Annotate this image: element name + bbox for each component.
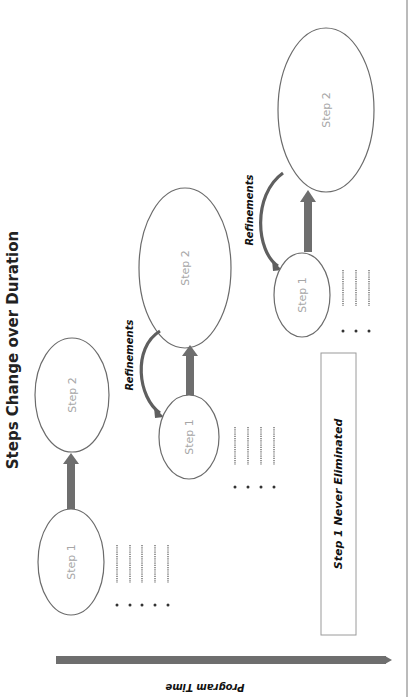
stage-2-list xyxy=(234,427,276,489)
stage-3-refinement-curve xyxy=(261,173,283,266)
stage-1-arrow xyxy=(67,462,75,510)
note-box-label: Step 1 Never Eliminated xyxy=(332,419,345,570)
stage-2-refinement-curve xyxy=(141,331,160,413)
stage-3-step2-label: Step 2 xyxy=(320,92,333,128)
stage-3-arrowhead-icon xyxy=(300,190,316,202)
stage-1-step2-label: Step 2 xyxy=(66,377,79,413)
stage-3: Step 2 Refinements Step 1 xyxy=(244,28,374,337)
timeline: Program Time xyxy=(56,656,392,693)
stage-1: Step 2 Step 1 xyxy=(35,338,170,615)
stage-3-arrow xyxy=(304,200,312,252)
stage-2-step1-label: Step 1 xyxy=(183,419,196,455)
stage-2-step2-label: Step 2 xyxy=(179,250,192,286)
diagram-canvas: Steps Change over Duration Step 2 Step 1… xyxy=(0,0,411,697)
timeline-label: Program Time xyxy=(165,682,244,693)
stage-2-arrow xyxy=(186,354,194,398)
diagram-title: Steps Change over Duration xyxy=(4,231,22,469)
stage-3-list xyxy=(342,270,371,333)
note-box: Step 1 Never Eliminated xyxy=(321,353,356,635)
timeline-arrowhead-icon xyxy=(385,656,392,664)
stage-1-list xyxy=(116,545,170,607)
stage-1-step1-label: Step 1 xyxy=(65,544,78,580)
stage-3-refinements-label: Refinements xyxy=(244,175,255,246)
stage-1-arrowhead-icon xyxy=(63,453,79,464)
timeline-bar xyxy=(56,656,386,664)
stage-3-step1-label: Step 1 xyxy=(296,277,309,313)
stage-2-refinements-label: Refinements xyxy=(124,320,135,391)
